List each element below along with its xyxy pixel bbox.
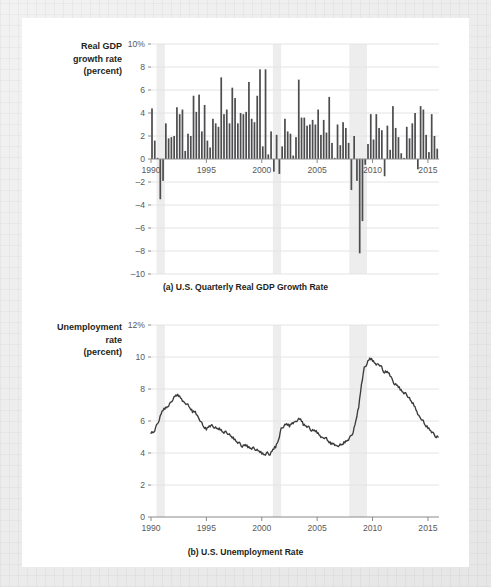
gdp-bar <box>389 150 391 159</box>
gdp-bar <box>292 156 294 159</box>
gdp-bar <box>248 82 250 159</box>
gdp-bar <box>182 110 184 159</box>
y-tick-label: 2 <box>140 131 145 141</box>
gdp-bar <box>317 110 319 159</box>
gdp-bar <box>173 136 175 159</box>
unemployment-line <box>151 358 438 455</box>
gdp-bar <box>251 119 253 159</box>
gdp-bar <box>387 126 389 159</box>
panel-a-caption: (a) U.S. Quarterly Real GDP Growth Rate <box>22 282 469 292</box>
gdp-bar <box>375 114 377 159</box>
x-tick-label: 2015 <box>418 523 437 533</box>
panel-a-axis-label-line-2: growth rate <box>30 53 122 66</box>
gdp-bar <box>423 110 425 159</box>
gdp-bar <box>276 135 278 159</box>
gdp-bar <box>328 97 330 159</box>
gdp-bar <box>409 138 411 159</box>
gdp-bar <box>406 127 408 159</box>
y-tick-label: 10 <box>135 352 145 362</box>
gdp-bar <box>411 123 413 159</box>
y-tick-label: –4 <box>135 200 145 210</box>
gdp-bar <box>348 143 350 159</box>
panel-a-axis-label-line-3: (percent) <box>30 65 122 78</box>
gdp-bar <box>359 159 361 253</box>
gdp-bar <box>301 118 303 159</box>
gdp-bar <box>284 119 286 159</box>
x-tick-label: 2010 <box>363 165 382 175</box>
y-tick-label: 0 <box>140 154 145 164</box>
gdp-bar <box>342 122 344 159</box>
x-tick-label: 1995 <box>197 165 216 175</box>
gdp-bar <box>267 154 269 159</box>
gdp-bar <box>345 128 347 159</box>
panel-b-unemployment: Unemployment rate (percent) 024681012%19… <box>22 301 469 567</box>
gdp-bar <box>392 106 394 159</box>
x-tick-label: 2000 <box>252 165 271 175</box>
gdp-bar <box>220 77 222 159</box>
gdp-bar <box>309 125 311 160</box>
y-tick-label: –6 <box>135 223 145 233</box>
y-tick-label: 8 <box>140 62 145 72</box>
x-tick-label: 1995 <box>197 523 216 533</box>
gdp-bar <box>259 69 261 159</box>
gdp-bar <box>245 112 247 159</box>
gdp-bar <box>179 114 181 159</box>
y-tick-label: –8 <box>135 246 145 256</box>
x-tick-label: 1990 <box>141 165 160 175</box>
gdp-bar <box>337 125 339 160</box>
gdp-bar <box>298 80 300 159</box>
gdp-bar <box>353 136 355 159</box>
gdp-bar <box>226 110 228 159</box>
gdp-bar <box>290 134 292 159</box>
gdp-bar <box>201 131 203 159</box>
y-tick-label: 8 <box>140 384 145 394</box>
gdp-bar <box>331 143 333 159</box>
gdp-bar <box>287 131 289 159</box>
gdp-bar <box>303 118 305 159</box>
gdp-bar <box>184 151 186 159</box>
gdp-bar <box>207 141 209 159</box>
gdp-bar <box>306 126 308 159</box>
gdp-bar <box>320 135 322 159</box>
gdp-bar <box>436 149 438 159</box>
panel-b-axis-label-line-2: rate <box>30 334 122 347</box>
panel-b-axis-label-line-3: (percent) <box>30 346 122 359</box>
gdp-bar <box>240 113 242 159</box>
gdp-bar <box>373 139 375 159</box>
page-background: Real GDP growth rate (percent) –10–8–6–4… <box>0 0 491 587</box>
gdp-bar <box>154 141 156 159</box>
gdp-bar <box>356 159 358 181</box>
gdp-bar <box>187 134 189 159</box>
gdp-bar <box>195 112 197 159</box>
gdp-bar <box>231 88 233 159</box>
panel-a-gdp-growth: Real GDP growth rate (percent) –10–8–6–4… <box>22 18 469 301</box>
gdp-bar <box>323 120 325 159</box>
panel-b-caption: (b) U.S. Unemployment Rate <box>22 547 469 557</box>
gdp-bar <box>281 146 283 159</box>
gdp-bar <box>237 123 239 159</box>
gdp-bar <box>295 137 297 159</box>
gdp-bar <box>279 159 281 174</box>
gdp-bar <box>265 69 267 159</box>
x-tick-label: 2005 <box>308 165 327 175</box>
gdp-bar <box>262 146 264 159</box>
x-tick-label: 1990 <box>141 523 160 533</box>
gdp-bar <box>339 145 341 159</box>
gdp-bar <box>428 152 430 159</box>
gdp-bar <box>378 128 380 159</box>
y-tick-label: 2 <box>140 480 145 490</box>
gdp-bar <box>270 131 272 159</box>
gdp-bar <box>256 96 258 159</box>
gdp-bar <box>223 114 225 159</box>
gdp-bar <box>434 136 436 159</box>
gdp-bar <box>370 114 372 159</box>
gdp-bar <box>425 135 427 159</box>
gdp-bar <box>312 120 314 159</box>
y-tick-label: 10% <box>128 39 146 49</box>
x-tick-label: 2005 <box>308 523 327 533</box>
panel-b-axis-label: Unemployment rate (percent) <box>30 321 122 359</box>
y-tick-label: 12% <box>128 320 146 330</box>
gdp-bar <box>367 144 369 159</box>
gdp-bar <box>254 122 256 159</box>
gdp-bar <box>234 98 236 159</box>
